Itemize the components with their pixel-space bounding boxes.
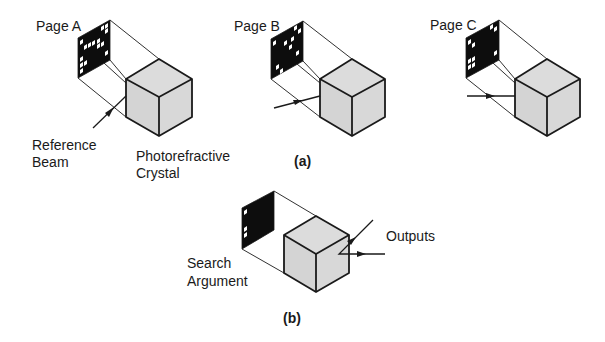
projection-line bbox=[78, 78, 126, 117]
panel-a-label: (a) bbox=[294, 153, 311, 169]
search-argument-label-line1: Search bbox=[187, 255, 231, 271]
unit-search: Outputs Search Argument bbox=[187, 191, 435, 292]
panel-b-label: (b) bbox=[283, 310, 301, 326]
reference-beam-label-line2: Beam bbox=[32, 154, 69, 170]
crystal-label-line2: Crystal bbox=[136, 165, 180, 181]
projection-line bbox=[110, 20, 159, 59]
output-arrowhead-horizontal bbox=[357, 251, 366, 257]
projection-line bbox=[242, 249, 284, 273]
page-a-title: Page A bbox=[36, 18, 82, 34]
unit-page-a: Page A bbox=[32, 18, 230, 181]
projection-line bbox=[499, 20, 547, 59]
photorefractive-crystal-c bbox=[515, 59, 580, 136]
photorefractive-crystal-b bbox=[320, 59, 385, 136]
holographic-memory-diagram: Page A bbox=[0, 0, 605, 342]
search-argument-label-line2: Argument bbox=[187, 273, 248, 289]
search-argument-page bbox=[242, 191, 274, 249]
page-c-title: Page C bbox=[430, 17, 477, 33]
unit-page-c: Page C bbox=[430, 17, 580, 136]
outputs-label: Outputs bbox=[386, 228, 435, 244]
reference-beam-arrow bbox=[93, 96, 126, 128]
photorefractive-crystal-a bbox=[126, 59, 192, 136]
crystal-label-line1: Photorefractive bbox=[136, 148, 230, 164]
projection-line bbox=[274, 191, 316, 216]
reference-beam-arrow-b bbox=[274, 96, 320, 108]
projection-line bbox=[303, 21, 352, 59]
reference-beam-label-line1: Reference bbox=[32, 137, 97, 153]
unit-page-b: Page B bbox=[234, 18, 385, 136]
page-b-title: Page B bbox=[234, 18, 280, 34]
